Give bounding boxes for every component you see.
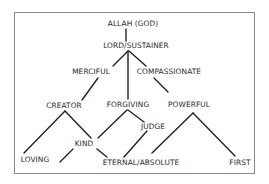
edge-kind-loving-side bbox=[60, 149, 73, 162]
edge-lord-merciful bbox=[113, 51, 128, 66]
node-kind: KIND bbox=[75, 140, 94, 147]
edge-forgiving-judge bbox=[128, 110, 144, 122]
edge-powerful-eternal bbox=[152, 113, 193, 153]
edge-merciful-creator bbox=[82, 78, 98, 100]
edge-powerful-first bbox=[193, 113, 235, 156]
node-powerful: POWERFUL bbox=[168, 101, 210, 108]
edge-judge-eternal bbox=[124, 131, 147, 157]
node-first: FIRST bbox=[229, 159, 250, 166]
node-merciful: MERCIFUL bbox=[72, 68, 110, 75]
node-compassionate: COMPASSIONATE bbox=[137, 68, 201, 75]
edge-forgiving-kind bbox=[98, 110, 127, 138]
node-creator: CREATOR bbox=[46, 102, 82, 109]
node-forgiving: FORGIVING bbox=[107, 101, 150, 108]
edge-creator-loving bbox=[24, 111, 65, 153]
node-lord: LORD/SUSTAINER bbox=[103, 42, 169, 49]
edge-compassionate-powerful bbox=[154, 78, 168, 92]
node-eternal: ETERNAL/ABSOLUTE bbox=[103, 159, 180, 166]
node-allah: ALLAH (GOD) bbox=[108, 20, 159, 27]
edge-lord-compassionate bbox=[129, 51, 146, 66]
edge-kind-eternal bbox=[97, 149, 107, 157]
edge-creator-kind bbox=[65, 111, 91, 138]
node-loving: LOVING bbox=[21, 156, 50, 163]
node-judge: JUDGE bbox=[141, 123, 165, 130]
